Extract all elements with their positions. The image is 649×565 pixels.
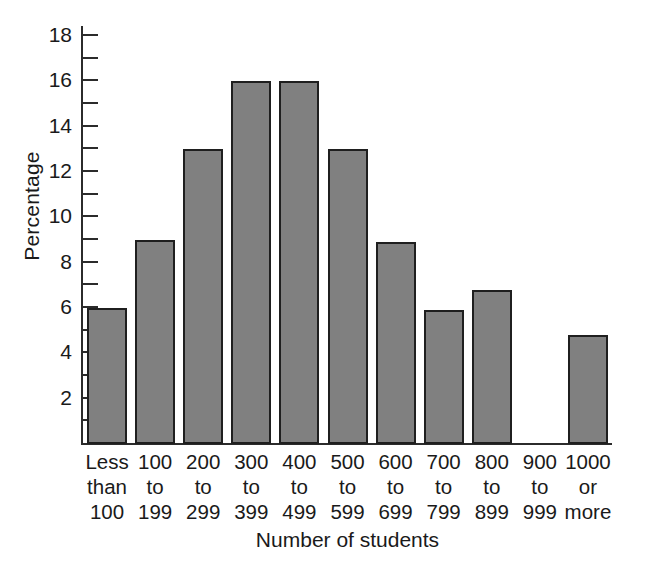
y-tick-label: 12	[26, 160, 72, 181]
bar	[376, 242, 416, 444]
x-category-label-line: 1000	[558, 449, 618, 474]
bar	[183, 149, 223, 444]
x-category-label-line: or	[558, 474, 618, 499]
x-category-label: 1000ormore	[558, 449, 618, 524]
bar	[135, 240, 175, 444]
y-tick-label: 18	[26, 24, 72, 45]
bar	[472, 290, 512, 444]
y-tick-label: 4	[26, 341, 72, 362]
bar	[328, 149, 368, 444]
y-tick-label: 8	[26, 251, 72, 272]
bar	[424, 310, 464, 444]
y-tick-label: 10	[26, 205, 72, 226]
x-axis-category-labels: Lessthan100100to199200to299300to399400to…	[83, 449, 612, 525]
bar-chart: Percentage 24681012141618 Lessthan100100…	[0, 0, 649, 565]
x-category-label-line: more	[558, 499, 618, 524]
bar	[279, 81, 319, 444]
x-axis-title: Number of students	[83, 528, 612, 552]
y-tick-label: 6	[26, 296, 72, 317]
plot-area	[83, 26, 612, 444]
y-tick-label: 14	[26, 115, 72, 136]
bar	[87, 308, 127, 444]
y-tick-label: 2	[26, 387, 72, 408]
bar	[568, 335, 608, 444]
bar	[231, 81, 271, 444]
y-tick-label: 16	[26, 69, 72, 90]
